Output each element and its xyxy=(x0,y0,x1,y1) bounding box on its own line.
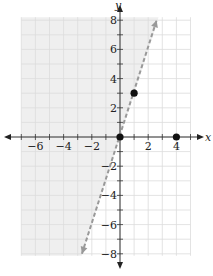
coordinate-plane: −6−4−224−8−6−4−22468 x y xyxy=(0,0,213,276)
y-tick-label: 6 xyxy=(110,43,117,56)
x-axis-right-arrow-icon xyxy=(197,134,204,140)
y-tick-label: −4 xyxy=(101,189,117,202)
y-tick-label: −8 xyxy=(101,248,117,261)
data-point xyxy=(131,90,138,97)
x-tick-label: −6 xyxy=(27,140,43,153)
x-tick-label: −4 xyxy=(55,140,71,153)
x-axis-label: x xyxy=(205,131,212,144)
data-point xyxy=(173,133,180,140)
x-tick-label: −2 xyxy=(84,140,100,153)
y-tick-label: 4 xyxy=(110,73,117,86)
x-tick-label: 2 xyxy=(145,140,152,153)
data-point xyxy=(116,133,123,140)
y-tick-label: 8 xyxy=(110,14,117,27)
y-tick-label: 2 xyxy=(110,102,117,115)
x-axis-left-arrow-icon xyxy=(4,134,11,140)
y-tick-label: −6 xyxy=(101,219,117,232)
y-axis-label: y xyxy=(114,0,122,12)
x-tick-label: 4 xyxy=(173,140,180,153)
y-axis-down-arrow-icon xyxy=(117,262,123,269)
